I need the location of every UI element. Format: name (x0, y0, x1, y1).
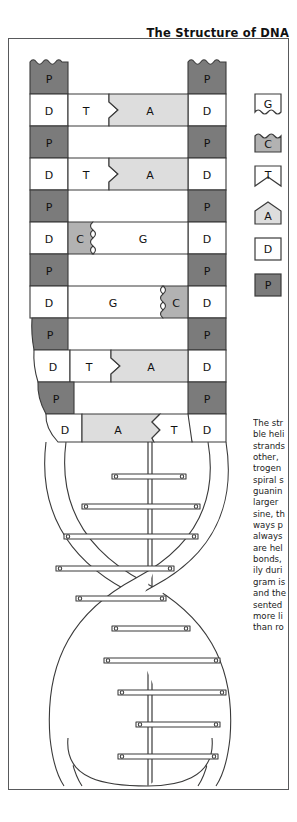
legend-item-cytosine: C (253, 128, 293, 154)
dna-double-helix-drawing (8, 38, 289, 790)
helix-rung (118, 754, 218, 759)
legend-item-adenine: A (253, 200, 293, 226)
legend-label-guanine: G (264, 98, 273, 111)
helix-rung (82, 504, 200, 509)
helix-rung (104, 658, 220, 663)
figure-caption: The str ble heli strands other, trogen s… (253, 418, 297, 648)
deoxyribose-shape-icon: D (253, 236, 283, 262)
helix-rung (118, 690, 226, 695)
legend-label-thymine: T (264, 169, 272, 182)
helix-rung (136, 722, 220, 727)
thymine-shape-icon: T (253, 164, 283, 190)
legend-item-phosphate: P (253, 272, 293, 298)
helix-rung (64, 534, 198, 539)
legend-item-thymine: T (253, 164, 293, 190)
adenine-shape-icon: A (253, 200, 283, 226)
legend-label-adenine: A (264, 210, 272, 223)
legend-label-deoxyribose: D (264, 243, 272, 256)
helix-rung (112, 626, 190, 631)
legend: G C T A D P (253, 92, 293, 298)
cytosine-shape-icon: C (253, 128, 283, 154)
legend-label-phosphate: P (265, 279, 272, 292)
legend-item-deoxyribose: D (253, 236, 293, 262)
helix-rung (56, 566, 174, 571)
legend-label-cytosine: C (264, 138, 272, 151)
legend-item-guanine: G (253, 92, 293, 118)
helix-rung (76, 596, 166, 601)
phosphate-shape-icon: P (253, 272, 283, 298)
guanine-shape-icon: G (253, 92, 283, 118)
helix-rung (112, 474, 186, 479)
